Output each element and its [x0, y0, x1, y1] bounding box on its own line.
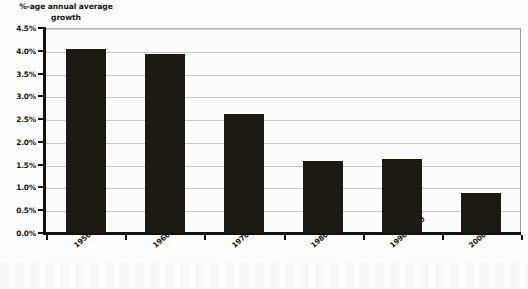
- gridline: [46, 29, 520, 30]
- y-axis-tick-label: 4.5%: [2, 24, 36, 33]
- gridline: [46, 52, 520, 53]
- x-axis-tick: [46, 235, 48, 240]
- bar: [461, 193, 501, 233]
- y-axis-tick: [38, 232, 43, 234]
- y-axis-tick-label-wrap: 1.0%: [0, 187, 36, 188]
- plot-area: [46, 28, 521, 233]
- chart-title-line-1: %-age annual average: [19, 2, 113, 11]
- y-axis-tick-label-wrap: 4.5%: [0, 28, 36, 29]
- y-axis-tick-label: 3.0%: [2, 92, 36, 101]
- y-axis-tick-label: 3.5%: [2, 70, 36, 79]
- y-axis-tick-label: 2.0%: [2, 138, 36, 147]
- y-axis-tick-label-wrap: 3.0%: [0, 96, 36, 97]
- x-axis-line: [43, 232, 521, 235]
- gridline: [46, 166, 520, 167]
- y-axis-tick: [38, 186, 43, 188]
- bar: [224, 114, 264, 233]
- y-axis-tick-label: 4.0%: [2, 47, 36, 56]
- gridline: [46, 120, 520, 121]
- y-axis-tick-label-wrap: 0.5%: [0, 210, 36, 211]
- gridline: [46, 211, 520, 212]
- chart-title-line-2: growth: [6, 13, 126, 24]
- gridline: [46, 143, 520, 144]
- y-axis-tick-label-wrap: 2.0%: [0, 142, 36, 143]
- x-axis-tick: [204, 235, 206, 240]
- x-axis-tick: [442, 235, 444, 240]
- bar: [303, 161, 343, 233]
- gridline: [46, 75, 520, 76]
- y-axis-line: [43, 27, 46, 235]
- y-axis-tick-label: 1.5%: [2, 161, 36, 170]
- y-axis-tick: [38, 27, 43, 29]
- y-axis-tick-label-wrap: 1.5%: [0, 165, 36, 166]
- y-axis-tick-label-wrap: 4.0%: [0, 51, 36, 52]
- y-axis-tick-label-wrap: 3.5%: [0, 74, 36, 75]
- chart-title: %-age annual average growth: [6, 2, 126, 23]
- y-axis-tick: [38, 209, 43, 211]
- y-axis-tick-label: 0.5%: [2, 206, 36, 215]
- y-axis-tick-label: 0.0%: [2, 229, 36, 238]
- bar: [382, 159, 422, 233]
- bar-chart: %-age annual average growth 0.0%0.5%1.0%…: [0, 0, 528, 289]
- y-axis-tick: [38, 118, 43, 120]
- y-axis-tick-label-wrap: 0.0%: [0, 233, 36, 234]
- x-axis-tick: [363, 235, 365, 240]
- y-axis-tick-label-wrap: 2.5%: [0, 119, 36, 120]
- bar: [66, 49, 106, 234]
- bar: [145, 54, 185, 233]
- y-axis-tick-label: 1.0%: [2, 183, 36, 192]
- y-axis-tick: [38, 95, 43, 97]
- x-axis-tick: [125, 235, 127, 240]
- gridline: [46, 188, 520, 189]
- y-axis-tick: [38, 50, 43, 52]
- y-axis-tick: [38, 141, 43, 143]
- y-axis-tick: [38, 73, 43, 75]
- x-axis-tick: [521, 235, 523, 240]
- x-axis-tick: [284, 235, 286, 240]
- scan-bleed: [0, 263, 528, 289]
- y-axis-tick: [38, 164, 43, 166]
- gridline: [46, 97, 520, 98]
- y-axis-tick-label: 2.5%: [2, 115, 36, 124]
